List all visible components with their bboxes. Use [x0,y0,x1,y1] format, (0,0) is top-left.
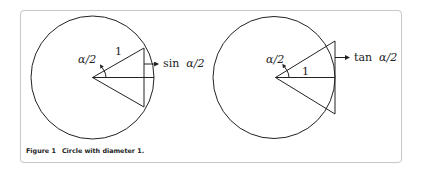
radius-label-left: 1 [115,45,122,58]
ray-lower-right [276,78,336,115]
figure-label: Figure 1 [26,147,56,155]
tangent-panel [213,17,349,139]
radius-lower-left [93,78,145,108]
tangent-arg: α/2 [379,51,397,64]
angle-arc-left [104,71,106,78]
figure-diagram: α/2 1 sin α/2 α/2 1 tan α/2 [0,0,422,171]
angle-label-right: α/2 [266,53,284,66]
angle-pointer-left [101,66,104,71]
sine-panel [31,16,158,139]
figure-caption-text: Circle with diameter 1. [62,147,144,155]
sine-func: sin [163,57,179,70]
figure-caption: Figure 1 Circle with diameter 1. [26,147,144,155]
sine-label: sin α/2 [163,53,204,70]
angle-arc-right [287,71,289,78]
radius-label-right: 1 [302,65,309,78]
sine-arg: α/2 [186,57,204,70]
angle-pointer-right [284,66,288,71]
angle-label-left: α/2 [78,53,96,66]
tangent-func: tan [354,51,372,64]
tangent-label: tan α/2 [354,47,397,64]
